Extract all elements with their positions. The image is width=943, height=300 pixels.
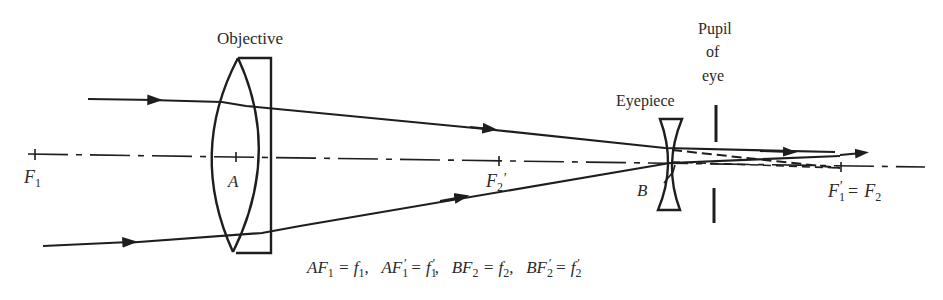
- lower-ray: [43, 153, 862, 246]
- pupil-label-line3: eye: [702, 67, 724, 85]
- upper-ray: [88, 99, 835, 152]
- B-label: B: [637, 181, 648, 200]
- virtual-rays: [672, 150, 840, 168]
- eyepiece-label: Eyepiece: [616, 92, 675, 110]
- F1prime-equals-F2-label: F1′=F2: [827, 179, 881, 204]
- F1-label: F1: [23, 167, 41, 190]
- optical-axis: [28, 154, 925, 167]
- pupil-label-line2: of: [706, 43, 720, 60]
- galilean-telescope-diagram: Objective Eyepiece Pupil of eye F1 A F2′…: [0, 0, 943, 300]
- pupil-label-line1: Pupil: [698, 20, 732, 38]
- objective-lens: [212, 58, 271, 253]
- focal-length-caption: AF1 = f1, AF1′ = f1′, BF2 = f2, BF2′ = f…: [306, 255, 581, 280]
- objective-label: Objective: [217, 29, 283, 48]
- A-label: A: [227, 172, 239, 191]
